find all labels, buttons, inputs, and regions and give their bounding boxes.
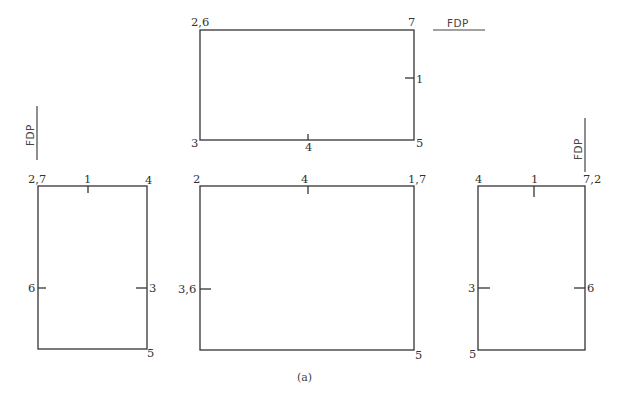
- top-view: 2,6 7 3 5 1 4: [191, 15, 423, 154]
- front-view-label-left-mid: 3,6: [178, 282, 196, 296]
- left-view-label-top-right: 4: [145, 173, 152, 187]
- right-view-label-top-left: 4: [475, 172, 482, 186]
- left-view-label-top-mid: 1: [84, 172, 91, 186]
- right-view-label-bottom-left: 5: [469, 347, 476, 361]
- left-view: 2,7 4 5 1 6 3: [28, 172, 156, 360]
- front-view-label-top-right: 1,7: [408, 172, 426, 186]
- left-view-label-left-mid: 6: [28, 281, 35, 295]
- right-view-label-right-mid: 6: [587, 281, 594, 295]
- top-view-rectangle: [200, 30, 414, 140]
- fdp-marker-left: FDP: [24, 106, 37, 160]
- front-view-label-top-mid: 4: [301, 172, 308, 186]
- top-view-label-top-left: 2,6: [191, 15, 209, 29]
- fdp-label: FDP: [447, 17, 469, 29]
- front-view-rectangle: [200, 186, 414, 350]
- top-view-label-bottom-mid: 4: [305, 140, 312, 154]
- fdp-marker-top: FDP: [433, 17, 485, 30]
- right-view-label-top-right: 7,2: [583, 172, 601, 186]
- orthographic-views-diagram: 2,6 7 3 5 1 4 FDP FDP FDP 2,7 4 5 1 6 3: [0, 0, 625, 406]
- fdp-marker-right: FDP: [572, 118, 585, 172]
- right-view-rectangle: [478, 186, 585, 350]
- left-view-label-bottom-right: 5: [147, 346, 154, 360]
- front-view: 2 1,7 5 4 3,6: [178, 172, 426, 362]
- front-view-label-bottom-right: 5: [415, 348, 422, 362]
- top-view-label-top-right: 7: [408, 15, 415, 29]
- figure-caption: (a): [297, 371, 312, 384]
- fdp-label: FDP: [24, 124, 36, 146]
- right-view: 4 7,2 5 1 3 6: [468, 172, 601, 361]
- right-view-label-top-mid: 1: [531, 172, 538, 186]
- top-view-label-bottom-right: 5: [416, 136, 423, 150]
- top-view-label-right-mid: 1: [416, 72, 423, 86]
- left-view-label-right-mid: 3: [149, 281, 156, 295]
- right-view-label-left-mid: 3: [468, 281, 475, 295]
- left-view-rectangle: [38, 186, 147, 349]
- fdp-label: FDP: [572, 138, 584, 160]
- left-view-label-top-left: 2,7: [28, 172, 46, 186]
- front-view-label-top-left: 2: [193, 172, 200, 186]
- top-view-label-bottom-left: 3: [191, 136, 198, 150]
